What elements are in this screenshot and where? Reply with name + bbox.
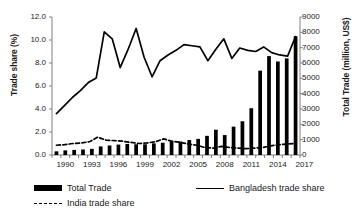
bar bbox=[196, 139, 200, 155]
bar bbox=[81, 149, 85, 155]
solid-line-swatch-icon bbox=[196, 188, 224, 189]
tick-marks bbox=[49, 17, 303, 158]
legend-item-total-trade: Total Trade bbox=[34, 183, 112, 193]
bar bbox=[125, 144, 129, 155]
bar bbox=[214, 130, 218, 155]
legend-item-bangladesh-trade-share: Bangladesh trade share bbox=[196, 183, 325, 193]
bar bbox=[152, 143, 156, 155]
bar bbox=[143, 144, 147, 155]
bar bbox=[267, 56, 271, 155]
bar bbox=[223, 135, 227, 155]
bar bbox=[187, 140, 191, 155]
bar bbox=[294, 36, 298, 155]
chart-legend: Total Trade Bangladesh trade share India… bbox=[0, 181, 357, 214]
bar bbox=[276, 61, 280, 155]
bar bbox=[241, 121, 245, 155]
bar bbox=[108, 145, 112, 155]
bar bbox=[55, 151, 59, 155]
bar bbox=[63, 150, 67, 155]
bar bbox=[205, 136, 209, 155]
bar bbox=[285, 58, 289, 155]
bar bbox=[99, 146, 103, 155]
legend-label-india-trade-share: India trade share bbox=[67, 198, 135, 208]
bar bbox=[72, 150, 76, 155]
legend-item-india-trade-share: India trade share bbox=[34, 198, 135, 208]
legend-label-total-trade: Total Trade bbox=[67, 183, 112, 193]
trade-share-chart: Trade share (%) Total Trade (million, US… bbox=[0, 0, 357, 214]
bar bbox=[90, 149, 94, 155]
total-trade-bars bbox=[55, 36, 298, 155]
bar bbox=[232, 127, 236, 155]
bar bbox=[161, 143, 165, 155]
bar bbox=[134, 144, 138, 155]
bar bbox=[258, 71, 262, 155]
axis-lines bbox=[52, 17, 300, 155]
bar bbox=[117, 145, 121, 155]
dashed-line-swatch-icon bbox=[34, 203, 62, 204]
bar-swatch-icon bbox=[34, 185, 62, 191]
bar bbox=[170, 141, 174, 155]
legend-label-bangladesh-trade-share: Bangladesh trade share bbox=[229, 183, 325, 193]
